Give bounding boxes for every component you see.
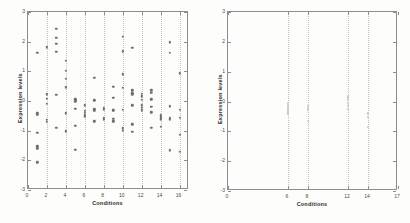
x-tick-label: 6 xyxy=(286,193,289,199)
y-tick xyxy=(28,12,31,13)
y-tick xyxy=(28,101,31,102)
x-tick xyxy=(308,186,309,189)
x-tick-top xyxy=(47,12,48,15)
y-tick-label: -2 xyxy=(215,157,225,163)
x-tick-top xyxy=(85,12,86,15)
y-tick-right xyxy=(393,12,396,13)
y-tick-right xyxy=(393,72,396,73)
data-point xyxy=(112,110,114,112)
y-tick xyxy=(28,160,31,161)
x-tick xyxy=(180,185,181,188)
y-tick-label: -3 xyxy=(15,186,25,192)
y-tick-label: -1 xyxy=(15,127,25,133)
data-point xyxy=(169,105,171,107)
data-point xyxy=(55,27,57,29)
x-tick-top xyxy=(180,12,181,15)
right-plot-frame xyxy=(227,11,397,190)
left-scatter-panel: Conditions Expression levels 02468101214… xyxy=(0,0,205,223)
x-tick xyxy=(85,185,86,188)
y-tick-right xyxy=(184,12,187,13)
x-tick-label: 14 xyxy=(157,192,163,198)
data-point xyxy=(93,99,95,101)
y-tick-label: 2 xyxy=(215,38,225,44)
figure-container: Conditions Expression levels 02468101214… xyxy=(0,0,410,223)
y-tick-right xyxy=(184,190,187,191)
y-tick xyxy=(228,42,231,43)
x-tick-label: 6 xyxy=(82,192,85,198)
data-point xyxy=(36,147,38,149)
data-point xyxy=(112,121,114,123)
data-point xyxy=(150,91,152,93)
y-tick-right xyxy=(393,102,396,103)
y-tick-label: 0 xyxy=(215,98,225,104)
y-tick-label: -3 xyxy=(215,187,225,193)
data-point xyxy=(74,148,76,150)
x-tick-label: 2 xyxy=(45,192,48,198)
x-tick-top xyxy=(142,12,143,15)
x-tick-label: 0 xyxy=(226,193,229,199)
x-tick xyxy=(288,186,289,189)
data-point xyxy=(55,126,57,128)
x-tick xyxy=(123,185,124,188)
y-tick-right xyxy=(184,101,187,102)
data-point xyxy=(150,111,152,113)
data-point xyxy=(150,106,152,108)
x-tick-top xyxy=(288,12,289,15)
x-tick-label: 14 xyxy=(364,193,370,199)
data-point xyxy=(55,94,57,96)
gridline-vertical xyxy=(180,12,181,188)
gridline-vertical xyxy=(288,12,289,189)
right-scatter-panel: Conditions Expression levels 068121417-3… xyxy=(205,0,410,223)
y-tick-right xyxy=(393,191,396,192)
y-tick xyxy=(228,72,231,73)
x-tick-label: 12 xyxy=(138,192,144,198)
data-point xyxy=(112,86,114,88)
data-point xyxy=(36,52,38,54)
x-tick-label: 8 xyxy=(101,192,104,198)
x-tick-label: 12 xyxy=(344,193,350,199)
y-tick-right xyxy=(393,161,396,162)
x-tick xyxy=(104,185,105,188)
data-point xyxy=(36,132,38,134)
y-tick-label: -1 xyxy=(215,127,225,133)
data-point xyxy=(131,93,133,95)
data-point xyxy=(131,131,133,133)
y-tick xyxy=(228,191,231,192)
y-tick xyxy=(228,161,231,162)
data-point xyxy=(169,149,171,151)
y-tick-label: 1 xyxy=(15,67,25,73)
data-point xyxy=(169,118,171,120)
x-tick xyxy=(28,185,29,188)
y-tick-label: 3 xyxy=(215,8,225,14)
x-tick-label: 10 xyxy=(119,192,125,198)
x-tick-top xyxy=(348,12,349,15)
data-point xyxy=(36,161,38,163)
y-tick-right xyxy=(184,71,187,72)
x-tick-top xyxy=(398,12,399,15)
gridline-vertical xyxy=(308,12,309,189)
x-tick-label: 17 xyxy=(394,193,400,199)
x-tick xyxy=(228,186,229,189)
x-tick-top xyxy=(308,12,309,15)
data-point xyxy=(169,41,171,43)
data-point xyxy=(169,52,171,54)
data-point xyxy=(131,104,133,106)
y-tick xyxy=(228,102,231,103)
y-tick xyxy=(228,12,231,13)
data-point xyxy=(74,100,76,102)
data-point xyxy=(74,108,76,110)
x-tick-top xyxy=(123,12,124,15)
x-tick-top xyxy=(104,12,105,15)
gridline-vertical xyxy=(85,12,86,188)
data-point xyxy=(93,120,95,122)
left-plot-frame xyxy=(27,11,188,189)
data-point xyxy=(131,46,133,48)
y-tick-right xyxy=(393,42,396,43)
y-tick-label: 1 xyxy=(215,68,225,74)
y-tick xyxy=(28,42,31,43)
data-point xyxy=(55,51,57,53)
y-tick-label: 3 xyxy=(15,8,25,14)
gridline-vertical xyxy=(123,12,124,188)
data-point xyxy=(55,43,57,45)
x-tick xyxy=(142,185,143,188)
